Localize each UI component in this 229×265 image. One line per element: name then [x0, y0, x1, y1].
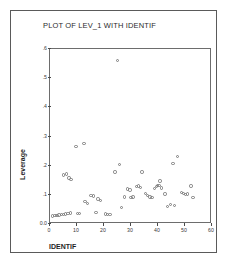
- x-axis-tick-mark: [49, 223, 50, 226]
- plot-area: [49, 48, 211, 223]
- scatter-point: [116, 59, 119, 62]
- scatter-point: [113, 170, 116, 173]
- x-axis-tick-label: 0: [48, 227, 51, 233]
- y-axis-tick-label: 0.0: [40, 220, 47, 226]
- x-axis-label: IDENTIF: [49, 243, 76, 250]
- x-axis-tick-mark: [184, 223, 185, 226]
- x-axis-tick-mark: [130, 223, 131, 226]
- scatter-point: [82, 142, 85, 145]
- scatter-point: [160, 186, 163, 189]
- x-axis-tick-group: 0102030405060: [49, 223, 211, 237]
- x-axis-tick-label: 60: [208, 227, 214, 233]
- y-axis-tick-label: .3: [43, 133, 47, 139]
- scatter-point: [118, 163, 121, 166]
- x-axis-tick-mark: [76, 223, 77, 226]
- scatter-point: [140, 170, 143, 173]
- y-axis-tick-group: 0.0.1.2.3.4.5.6: [33, 48, 47, 223]
- scatter-point: [163, 192, 166, 195]
- scatter-point: [92, 194, 95, 197]
- scatter-point: [150, 196, 153, 199]
- scatter-point: [94, 211, 97, 214]
- scatter-point: [171, 162, 174, 165]
- y-axis-tick-label: .5: [43, 74, 47, 80]
- y-axis-label: Leverage: [19, 138, 26, 192]
- y-axis-tick-mark: [48, 165, 51, 166]
- chart-title: PLOT OF LEV_1 WITH IDENTIF: [43, 21, 156, 30]
- x-axis-tick-label: 50: [181, 227, 187, 233]
- scatter-point: [169, 203, 172, 206]
- scatter-point: [158, 179, 161, 182]
- scatter-point: [176, 155, 179, 158]
- scatter-point: [189, 184, 192, 187]
- scatter-point: [78, 212, 81, 215]
- scatter-point: [120, 206, 123, 209]
- scatter-point: [69, 178, 72, 181]
- y-axis-tick-label: .2: [43, 162, 47, 168]
- y-axis-tick-mark: [48, 106, 51, 107]
- x-axis-tick-mark: [211, 223, 212, 226]
- x-axis-tick-label: 40: [154, 227, 160, 233]
- scatter-point: [86, 202, 89, 205]
- x-axis-tick-label: 10: [73, 227, 79, 233]
- x-axis-tick-label: 30: [127, 227, 133, 233]
- figure-outer-frame: PLOT OF LEV_1 WITH IDENTIF 0.0.1.2.3.4.5…: [10, 10, 217, 253]
- y-axis-tick-label: .4: [43, 103, 47, 109]
- y-axis-tick-mark: [48, 48, 51, 49]
- scatter-point: [108, 213, 111, 216]
- y-axis-tick-mark: [48, 77, 51, 78]
- scatter-point: [123, 195, 126, 198]
- y-axis-tick-label: .6: [43, 45, 47, 51]
- scatter-point: [186, 192, 189, 195]
- x-axis-tick-mark: [157, 223, 158, 226]
- scatter-point: [173, 204, 176, 207]
- y-axis-tick-mark: [48, 136, 51, 137]
- scatter-point: [69, 211, 72, 214]
- scatter-point: [74, 145, 77, 148]
- y-axis-tick-label: .1: [43, 191, 47, 197]
- x-axis-tick-mark: [103, 223, 104, 226]
- x-axis-tick-label: 20: [100, 227, 106, 233]
- scatter-point: [139, 186, 142, 189]
- scatter-point: [128, 188, 131, 191]
- scatter-point: [99, 199, 102, 202]
- y-axis-tick-mark: [48, 194, 51, 195]
- scatter-point: [131, 195, 134, 198]
- scatter-point: [191, 196, 194, 199]
- scatter-point: [65, 172, 68, 175]
